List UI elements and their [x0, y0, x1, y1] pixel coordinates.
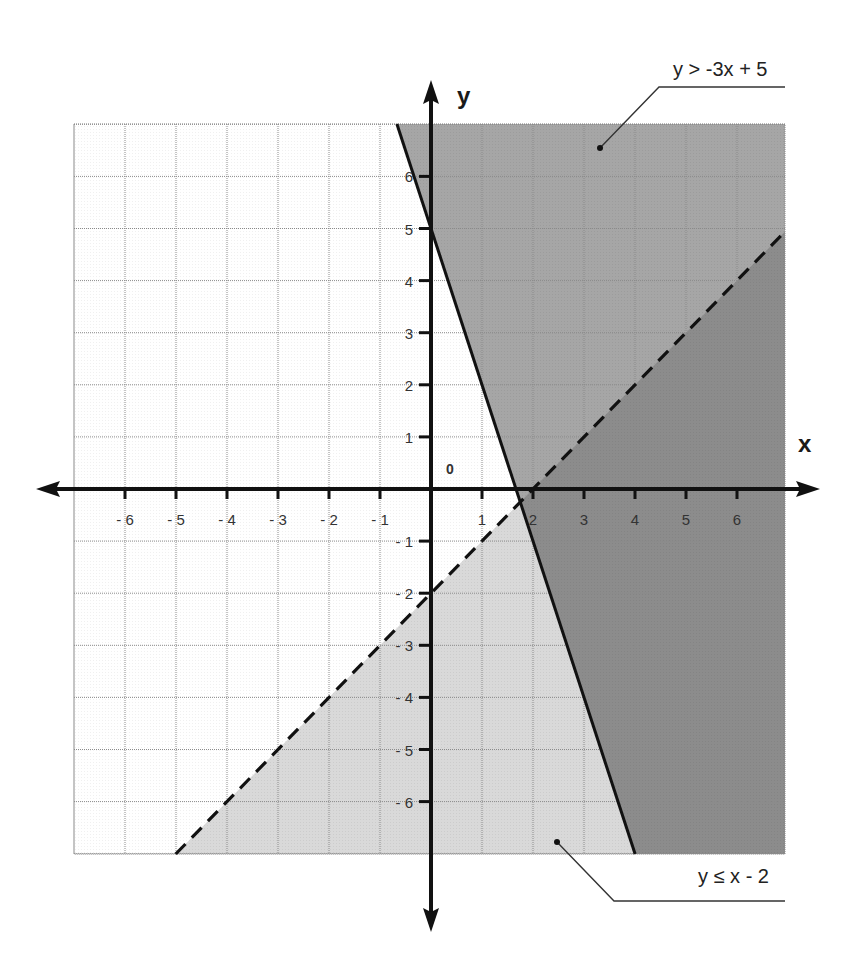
y-tick-label: 6 — [405, 168, 413, 185]
x-tick-label: - 1 — [371, 511, 389, 528]
origin-label: 0 — [446, 461, 454, 477]
y-tick-label: - 6 — [395, 794, 413, 811]
y-tick-label: 2 — [405, 377, 413, 394]
x-tick-label: 5 — [682, 511, 690, 528]
y-tick-label: - 5 — [395, 742, 413, 759]
x-tick-label: 6 — [733, 511, 741, 528]
x-tick-label: - 6 — [116, 511, 134, 528]
y-tick-label: - 4 — [395, 689, 413, 706]
x-tick-label: 3 — [580, 511, 588, 528]
y-tick-label: 1 — [405, 429, 413, 446]
inequality-graph: - 6- 5- 4- 3- 2- 1123456- 6- 5- 4- 3- 2-… — [0, 0, 856, 955]
x-tick-label: 4 — [631, 511, 639, 528]
annotation-bottom-text: y ≤ x - 2 — [698, 865, 769, 887]
x-tick-label: - 5 — [167, 511, 185, 528]
x-tick-label: - 4 — [218, 511, 236, 528]
x-axis-label: x — [798, 430, 812, 457]
y-axis-label: y — [457, 82, 471, 109]
y-tick-label: - 2 — [395, 585, 413, 602]
y-tick-label: 3 — [405, 325, 413, 342]
x-tick-label: 2 — [529, 511, 537, 528]
y-tick-label: 4 — [405, 273, 413, 290]
x-tick-label: 1 — [478, 511, 486, 528]
y-tick-label: - 1 — [395, 533, 413, 550]
y-tick-label: 5 — [405, 221, 413, 238]
y-tick-label: - 3 — [395, 637, 413, 654]
x-tick-label: - 2 — [320, 511, 338, 528]
x-tick-label: - 3 — [269, 511, 287, 528]
annotation-top-text: y > -3x + 5 — [673, 58, 768, 80]
